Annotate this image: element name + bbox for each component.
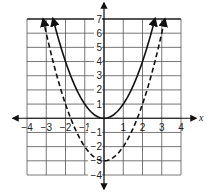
y-tick-label: −2 — [91, 141, 103, 152]
y-tick-label: 3 — [96, 70, 102, 81]
x-tick-label: −2 — [60, 122, 72, 133]
y-tick-label: 6 — [96, 28, 102, 39]
y-tick-label: 5 — [96, 42, 102, 53]
y-tick-label: 1 — [96, 99, 102, 110]
x-tick-label: 3 — [159, 122, 165, 133]
y-tick-label: −1 — [91, 127, 103, 138]
x-tick-label: 4 — [178, 122, 184, 133]
parabola-graph: x−4−3−2−112347654321−1−2−3−4 — [0, 0, 211, 192]
x-tick-label: 2 — [140, 122, 146, 133]
y-tick-label: 4 — [96, 56, 102, 67]
x-axis-label: x — [198, 112, 204, 123]
x-tick-label: −3 — [41, 122, 53, 133]
x-tick-label: 1 — [120, 122, 126, 133]
y-tick-label: 2 — [96, 84, 102, 95]
tick-labels: x−4−3−2−112347654321−1−2−3−4 — [21, 14, 204, 181]
x-tick-label: −4 — [21, 122, 33, 133]
y-tick-label: 7 — [96, 14, 102, 25]
y-tick-label: −4 — [91, 170, 103, 181]
